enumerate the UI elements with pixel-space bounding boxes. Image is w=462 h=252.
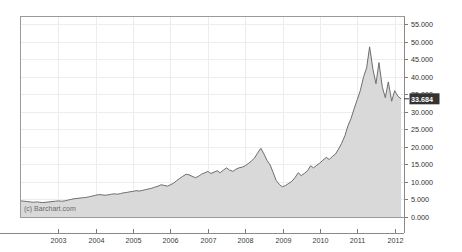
- x-tick-label: 2007: [201, 236, 217, 245]
- y-tick-label: 30.000: [411, 108, 433, 117]
- x-tick-label: 2005: [126, 236, 142, 245]
- x-tick-label: 2012: [388, 236, 404, 245]
- y-tick-label: 55.000: [411, 20, 433, 29]
- x-tick-label: 2009: [276, 236, 292, 245]
- y-tick-label: 10.000: [411, 178, 433, 187]
- x-tick-label: 2004: [89, 236, 105, 245]
- x-tick-label: 2006: [163, 236, 179, 245]
- y-tick-label: 50.000: [411, 38, 433, 47]
- stock-price-chart: 55.00050.00045.00040.00035.00030.00025.0…: [0, 0, 462, 252]
- y-tick-label: 0.000: [411, 213, 429, 222]
- current-value-text: 33.684: [411, 95, 433, 104]
- watermark-label: (c) Barchart.com: [24, 205, 76, 213]
- y-tick-label: 15.000: [411, 160, 433, 169]
- x-tick-label: 2011: [350, 236, 365, 245]
- y-tick-label: 20.000: [411, 143, 433, 152]
- y-tick-label: 5.000: [411, 195, 429, 204]
- y-tick-label: 45.000: [411, 55, 433, 64]
- chart-canvas: 55.00050.00045.00040.00035.00030.00025.0…: [0, 0, 462, 252]
- y-tick-label: 25.000: [411, 125, 433, 134]
- y-tick-label: 40.000: [411, 73, 433, 82]
- x-tick-label: 2003: [51, 236, 67, 245]
- x-tick-label: 2008: [238, 236, 254, 245]
- x-tick-label: 2010: [313, 236, 329, 245]
